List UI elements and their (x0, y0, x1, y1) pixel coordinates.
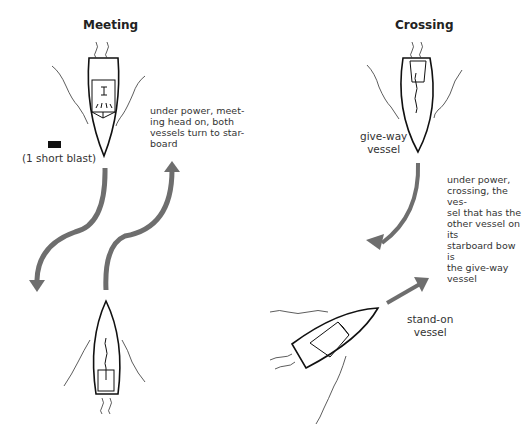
label-line: vessel (360, 143, 407, 156)
meeting-top-wheel-icon (96, 87, 112, 108)
caption-line: the give-way (447, 262, 525, 273)
arrowhead-down-left (29, 280, 45, 292)
crossing-stand-on-boat (292, 308, 378, 368)
give-way-arrow (382, 163, 418, 243)
label-line: stand-on (407, 313, 453, 326)
meeting-bottom-boat (94, 301, 120, 394)
stand-on-label: stand-on vessel (407, 313, 453, 339)
caption-line: starboard bow is (447, 240, 525, 262)
meeting-arrows (37, 168, 172, 290)
caption-line: vessels turn to star- (150, 127, 244, 138)
caption-line: under power, (447, 174, 525, 185)
arrowhead-up-right (164, 161, 180, 172)
give-way-arrowhead (366, 234, 384, 250)
give-way-label: give-way vessel (360, 130, 407, 156)
caption-line: other vessel on its (447, 218, 525, 240)
caption-line: sel that has the (447, 207, 525, 218)
meeting-caption: under power, meet- ing head on, both ves… (150, 105, 244, 149)
meeting-bottom-wake (64, 340, 145, 414)
crossing-caption: under power, crossing, the ves- sel that… (447, 174, 525, 284)
crossing-top-wake (367, 42, 462, 119)
crossing-title: Crossing (395, 18, 454, 32)
caption-line: board (150, 138, 244, 149)
meeting-top-boat (88, 58, 118, 156)
caption-line: vessel (447, 273, 525, 284)
label-line: vessel (407, 326, 453, 339)
meeting-top-wake (52, 42, 145, 126)
caption-line: under power, meet- (150, 105, 244, 116)
caption-line: ing head on, both (150, 116, 244, 127)
meeting-title: Meeting (83, 18, 138, 32)
label-line: give-way (360, 130, 407, 143)
stand-on-arrow (387, 284, 420, 303)
short-blast-symbol (48, 141, 61, 148)
caption-line: crossing, the ves- (447, 185, 525, 207)
short-blast-label: (1 short blast) (22, 153, 96, 164)
